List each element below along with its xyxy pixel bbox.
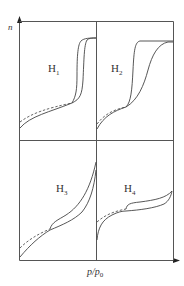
panel-h1 [20,38,96,128]
panel-h4 [97,191,172,240]
h4-adsorption-low [97,211,126,240]
panel-label-h2: H2 [111,62,123,77]
panel-label-h3: H3 [56,182,68,197]
h1-desorption-branch [72,38,96,103]
h1-adsorption-low [20,103,72,128]
axes-frame [17,16,180,263]
h2-desorption-branch [126,41,173,107]
h2-adsorption-low [97,107,126,129]
panel-h2 [97,41,173,129]
hysteresis-loop-diagram: n H1 H2 H3 H4 p/p0 [0,0,184,286]
x-axis-arrow-icon [173,258,180,263]
panel-label-h4: H4 [124,182,136,197]
y-axis-label: n [8,22,13,32]
h2-dashed-branch [97,107,126,124]
panel-label-h1: H1 [48,62,60,77]
h3-dashed-branch [20,229,50,248]
panel-h3 [20,162,96,257]
x-axis-label: p/p0 [86,266,104,279]
